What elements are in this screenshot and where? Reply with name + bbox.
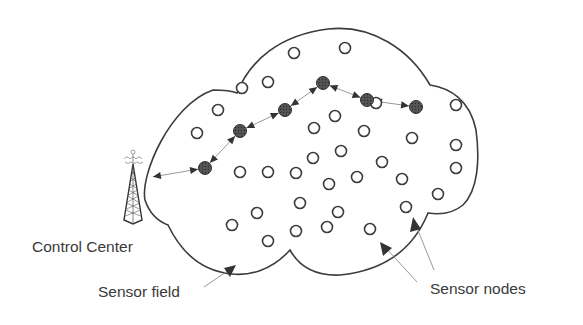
sensor-field-outline — [144, 28, 477, 275]
sensor-node — [295, 198, 306, 209]
control-center-tower-icon — [124, 150, 143, 224]
link-arrowhead — [291, 98, 300, 106]
link-arrowhead — [153, 172, 161, 179]
relay-sensor-node — [361, 94, 374, 107]
sensor-node — [407, 133, 418, 144]
link-arrowhead — [330, 85, 339, 92]
sensor-node — [359, 126, 370, 137]
sensor-node — [192, 128, 203, 139]
sensor-nodes-pointer-arrowhead-1 — [380, 242, 392, 256]
sensor-node — [263, 167, 274, 178]
relay-sensor-node — [199, 162, 212, 175]
sensor-node — [227, 220, 238, 231]
link-arrowhead — [401, 101, 409, 108]
diagram-canvas — [0, 0, 583, 325]
sensor-field-label: Sensor field — [98, 283, 180, 301]
sensor-node — [322, 222, 333, 233]
sensor-node — [324, 179, 335, 190]
link-arrowhead — [190, 167, 198, 174]
sensor-node — [330, 111, 341, 122]
sensor-node — [451, 140, 462, 151]
relay-sensor-node — [410, 101, 423, 114]
sensor-node — [291, 226, 302, 237]
relay-sensor-node — [279, 104, 292, 117]
sensor-node — [289, 48, 300, 59]
sensor-node — [291, 168, 302, 179]
sensor-node — [237, 83, 248, 94]
relay-sensor-node — [317, 77, 330, 90]
sensor-node — [451, 100, 462, 111]
sensor-node — [401, 202, 412, 213]
sensor-node — [308, 153, 319, 164]
sensor-node — [263, 77, 274, 88]
sensor-node — [263, 236, 274, 247]
relay-sensor-node — [234, 125, 247, 138]
sensor-field-pointer-arrowhead — [224, 265, 236, 277]
sensor-node — [377, 157, 388, 168]
sensor-nodes-label: Sensor nodes — [430, 280, 526, 298]
control-center-label: Control Center — [32, 238, 133, 256]
sensor-node — [352, 172, 363, 183]
link-arrowhead — [352, 91, 361, 98]
sensor-node — [333, 207, 344, 218]
sensor-node — [309, 123, 320, 134]
sensor-node — [397, 174, 408, 185]
sensor-node — [235, 167, 246, 178]
sensor-node — [433, 189, 444, 200]
sensor-nodes-group — [192, 43, 462, 247]
link-arrowhead — [309, 87, 318, 95]
sensor-node — [451, 163, 462, 174]
sensor-node — [213, 105, 224, 116]
sensor-node — [252, 208, 263, 219]
sensor-node — [365, 224, 376, 235]
sensor-node — [340, 43, 351, 54]
sensor-node — [336, 146, 347, 157]
sensor-network-diagram: Control Center Sensor field Sensor nodes — [0, 0, 583, 325]
